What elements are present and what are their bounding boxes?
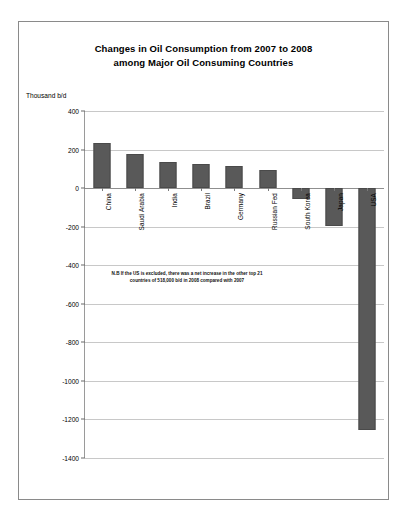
plot-area: 4002000-200-400-600-800-1000-1200-1400 C… xyxy=(85,111,384,458)
y-tick-label--1200: -1200 xyxy=(62,416,79,423)
chart-title-line-1: Changes in Oil Consumption from 2007 to … xyxy=(19,42,388,56)
x-tick-mark xyxy=(268,188,269,191)
x-category-label-india: India xyxy=(171,193,178,207)
x-tick-mark xyxy=(201,188,202,191)
x-category-label-brazil: Brazil xyxy=(204,193,211,210)
chart-note-line-1: N.B If the US is excluded, there was a n… xyxy=(57,270,317,277)
bar[interactable] xyxy=(93,143,110,188)
x-tick-mark xyxy=(234,188,235,191)
x-tick-mark xyxy=(102,188,103,191)
bar-slot: USA xyxy=(351,111,384,458)
bar-slot: Russian Fed xyxy=(251,111,284,458)
bar-slot: Brazil xyxy=(185,111,218,458)
figure-frame: Changes in Oil Consumption from 2007 to … xyxy=(18,21,389,500)
bar-slot: Germany xyxy=(218,111,251,458)
y-tick-label--800: -800 xyxy=(66,339,79,346)
y-tick-label--1400: -1400 xyxy=(62,455,79,462)
bar-slot: South Korea xyxy=(284,111,317,458)
y-tick-label-200: 200 xyxy=(68,146,79,153)
chart-note-line-2: countries of 518,000 b/d in 2008 compare… xyxy=(57,277,317,284)
x-category-label-south-korea: South Korea xyxy=(304,193,311,230)
y-tick-label--600: -600 xyxy=(66,300,79,307)
x-category-label-usa: USA xyxy=(370,193,377,206)
x-category-label-germany: Germany xyxy=(237,193,244,220)
gridline--1400 xyxy=(85,458,384,459)
x-tick-mark xyxy=(135,188,136,191)
y-tick-label-0: 0 xyxy=(75,185,79,192)
x-category-label-china: China xyxy=(105,193,112,210)
bar[interactable] xyxy=(160,162,177,188)
bar[interactable] xyxy=(259,170,276,188)
bar[interactable] xyxy=(126,154,143,188)
bar-slot: Saudi Arabia xyxy=(118,111,151,458)
y-tick-label-400: 400 xyxy=(68,108,79,115)
x-tick-mark xyxy=(301,188,302,191)
bar[interactable] xyxy=(359,188,376,430)
x-category-label-japan: Japan xyxy=(337,193,344,211)
y-tick-label--1000: -1000 xyxy=(62,377,79,384)
x-category-label-russian-fed: Russian Fed xyxy=(271,193,278,230)
y-axis-caption: Thousand b/d xyxy=(26,92,66,99)
x-tick-mark xyxy=(334,188,335,191)
chart-title-line-2: among Major Oil Consuming Countries xyxy=(19,56,388,70)
y-tick-label--400: -400 xyxy=(66,262,79,269)
y-tick-label--200: -200 xyxy=(66,223,79,230)
x-tick-mark xyxy=(367,188,368,191)
page-title: Changes in Oil Consumption from 2007 to … xyxy=(19,42,388,70)
bar[interactable] xyxy=(226,166,243,188)
chart-annotation-note: N.B If the US is excluded, there was a n… xyxy=(57,270,317,284)
x-category-label-saudi-arabia: Saudi Arabia xyxy=(138,193,145,230)
bar-slot: Japan xyxy=(318,111,351,458)
bar-slot: India xyxy=(151,111,184,458)
bar-series: ChinaSaudi ArabiaIndiaBrazilGermanyRussi… xyxy=(85,111,384,458)
x-tick-mark xyxy=(168,188,169,191)
bar[interactable] xyxy=(193,164,210,188)
bar-slot: China xyxy=(85,111,118,458)
